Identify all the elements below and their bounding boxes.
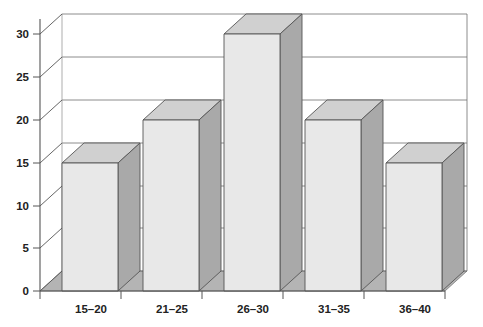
bar-group-26-30[interactable] bbox=[224, 14, 302, 291]
bar-side-face-5 bbox=[442, 143, 464, 291]
bar-chart-figure: 0 5 10 15 20 25 30 bbox=[0, 0, 483, 327]
bar-front-face-4 bbox=[305, 120, 361, 291]
y-tick-label-0: 0 bbox=[23, 285, 29, 297]
x-tick-label-4: 36–40 bbox=[399, 303, 431, 315]
bar-group-15-20[interactable] bbox=[62, 143, 140, 291]
x-tick-label-0: 15–20 bbox=[75, 303, 107, 315]
y-tick-label-25: 25 bbox=[16, 71, 29, 83]
y-tick-label-5: 5 bbox=[23, 242, 30, 254]
category-axis bbox=[40, 291, 445, 299]
x-tick-label-3: 31–35 bbox=[318, 303, 351, 315]
y-tick-label-30: 30 bbox=[16, 28, 29, 40]
x-tick-label-2: 26–30 bbox=[237, 303, 269, 315]
bar-front-face-2 bbox=[143, 120, 199, 291]
bar-group-31-35[interactable] bbox=[305, 100, 383, 291]
bar-side-face-2 bbox=[199, 100, 221, 291]
bar-group-36-40[interactable] bbox=[386, 143, 464, 291]
y-tick-label-20: 20 bbox=[16, 114, 29, 126]
x-tick-label-1: 21–25 bbox=[156, 303, 189, 315]
bar-side-face-1 bbox=[118, 143, 140, 291]
bar-front-face-1 bbox=[62, 163, 118, 291]
bar-side-face-3 bbox=[280, 14, 302, 291]
bar-side-face-4 bbox=[361, 100, 383, 291]
bar-group-21-25[interactable] bbox=[143, 100, 221, 291]
chart-canvas: 0 5 10 15 20 25 30 bbox=[0, 0, 483, 327]
y-tick-label-10: 10 bbox=[16, 200, 29, 212]
category-axis-tick-labels: 15–20 21–25 26–30 31–35 36–40 bbox=[75, 303, 431, 315]
bar-front-face-3 bbox=[224, 34, 280, 291]
y-tick-label-15: 15 bbox=[16, 157, 29, 169]
value-axis-tick-labels: 0 5 10 15 20 25 30 bbox=[16, 28, 29, 297]
bar-front-face-5 bbox=[386, 163, 442, 291]
